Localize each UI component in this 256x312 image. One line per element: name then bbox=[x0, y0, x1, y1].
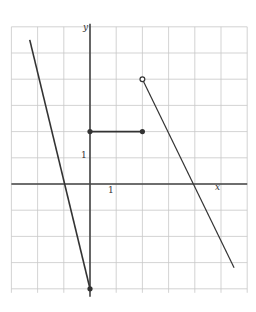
closed-endpoint-dot bbox=[87, 286, 92, 291]
open-endpoint-circle bbox=[140, 77, 145, 82]
piece-1-segment bbox=[30, 40, 90, 289]
piecewise-function-graph bbox=[0, 0, 256, 312]
axes bbox=[11, 24, 247, 297]
y-axis-label: y bbox=[83, 22, 88, 32]
x-axis-label: x bbox=[215, 182, 220, 192]
function-pieces bbox=[30, 40, 234, 292]
x-unit-tick-label: 1 bbox=[108, 185, 114, 195]
y-unit-tick-label: 1 bbox=[81, 150, 87, 160]
closed-endpoint-dot bbox=[140, 129, 145, 134]
closed-endpoint-dot bbox=[87, 129, 92, 134]
piece-3-segment bbox=[142, 79, 234, 268]
grid-lines bbox=[11, 27, 247, 293]
